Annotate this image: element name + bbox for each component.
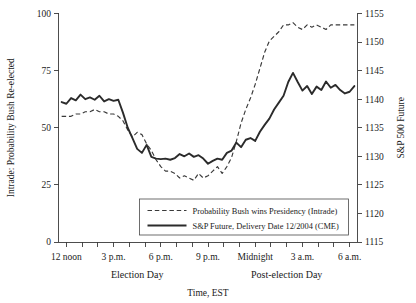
y-axis-right-tick-label: 1120	[365, 209, 384, 219]
x-axis-ticks	[66, 242, 349, 247]
y-axis-left-tick-label: 0	[46, 237, 51, 247]
x-axis-tick-label: 3 p.m.	[102, 252, 126, 262]
dual-axis-line-chart: 0255075100 11151120112511301135114011451…	[0, 0, 416, 303]
y-axis-right-tick-label: 1145	[365, 66, 384, 76]
x-axis-tick-label: 6 a.m.	[338, 252, 361, 262]
x-axis-tick-label: 3 a.m.	[291, 252, 314, 262]
y-axis-right-tick-label: 1155	[365, 9, 384, 19]
y-axis-right-tick-label: 1140	[365, 95, 384, 105]
y-axis-left-ticks: 0255075100	[37, 9, 59, 248]
x-axis-tick-labels: 12 noon3 p.m.6 p.m.9 p.m.Midnight3 a.m.6…	[51, 252, 361, 262]
chart-legend: Probability Bush wins Presidency (Intrad…	[140, 199, 349, 235]
y-axis-right-tick-label: 1150	[365, 37, 384, 47]
y-axis-right-tick-label: 1115	[365, 237, 384, 247]
x-axis-tick-label: 6 p.m.	[149, 252, 173, 262]
chart-container: 0255075100 11151120112511301135114011451…	[0, 0, 416, 303]
y-axis-left-title: Intrade: Probability Bush Re-elected	[6, 58, 16, 197]
legend-entry-label: S&P Future, Delivery Date 12/2004 (CME)	[193, 222, 339, 231]
y-axis-right-tick-label: 1130	[365, 152, 384, 162]
x-axis-tick-label: 12 noon	[51, 252, 82, 262]
y-axis-right-tick-label: 1125	[365, 180, 384, 190]
x-axis-group-label: Election Day	[111, 269, 163, 280]
x-axis-group-labels: Election DayPost-election Day	[111, 269, 322, 280]
y-axis-left-tick-label: 75	[42, 66, 52, 76]
x-axis-tick-label: 9 p.m.	[196, 252, 220, 262]
legend-entry-label: Probability Bush wins Presidency (Intrad…	[193, 207, 338, 216]
x-axis-tick-label: Midnight	[238, 252, 274, 262]
x-axis-title: Time, EST	[187, 288, 229, 298]
y-axis-right-title: S&P 500 Future	[396, 97, 406, 158]
data-series-group	[62, 23, 355, 181]
y-axis-left-tick-label: 25	[42, 180, 52, 190]
y-axis-left-tick-label: 100	[37, 9, 52, 19]
y-axis-left-tick-label: 50	[42, 123, 52, 133]
y-axis-right-tick-label: 1135	[365, 123, 384, 133]
series-line-sp500-future	[62, 73, 355, 164]
y-axis-right-ticks: 111511201125113011351140114511501155	[358, 9, 384, 248]
x-axis-group-label: Post-election Day	[251, 269, 322, 280]
